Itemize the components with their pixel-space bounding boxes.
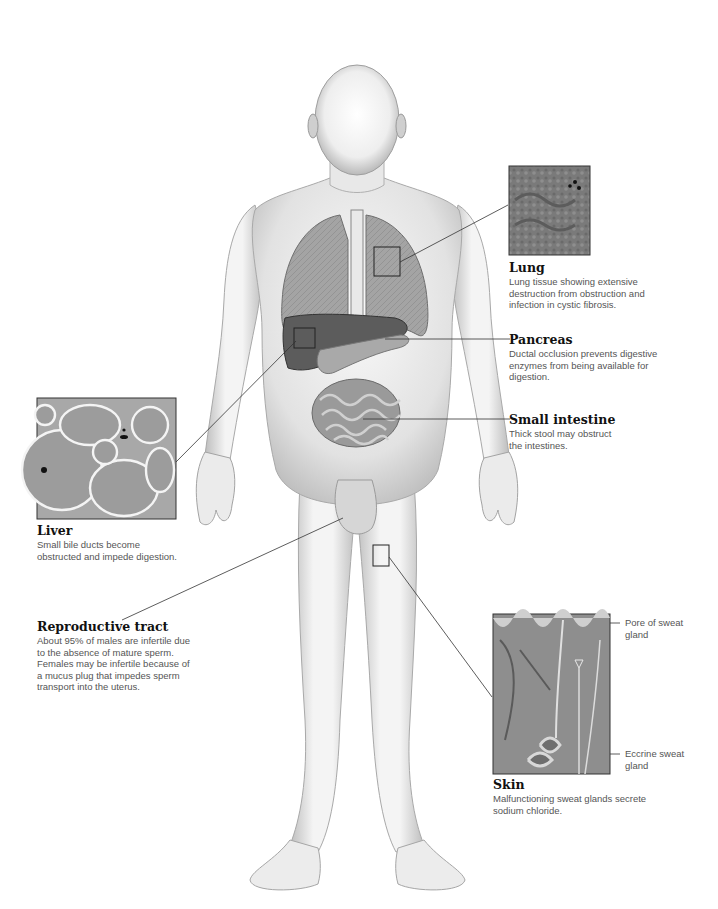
lung-desc-line: infection in cystic fibrosis. [509,299,645,311]
lung-desc-line: destruction from obstruction and [509,288,645,300]
liver-description: Small bile ducts become obstructed and i… [37,539,177,562]
left-foot [250,840,320,890]
skin-desc-line: Malfunctioning sweat glands secrete [493,793,646,805]
right-foot [396,840,465,890]
reproductive-tract-callout: Reproductive tract About 95% of males ar… [37,620,190,693]
skin-description: Malfunctioning sweat glands secrete sodi… [493,793,646,816]
skin-title: Skin [493,778,646,792]
reproductive-desc-line: transport into the uterus. [37,681,190,693]
small-intestine-callout: Small intestine Thick stool may obstruct… [509,413,615,451]
pancreas-description: Ductal occlusion prevents digestive enzy… [509,348,657,383]
anatomy-diagram: Lung Lung tissue showing extensive destr… [0,0,718,909]
pancreas-desc-line: digestion. [509,371,657,383]
liver-title: Liver [37,524,177,538]
lung-desc-line: Lung tissue showing extensive [509,276,645,288]
small-intestine-desc-line: the intestines. [509,440,615,452]
lung-description: Lung tissue showing extensive destructio… [509,276,645,311]
reproductive-tract-description: About 95% of males are infertile due to … [37,635,190,693]
left-ear [308,114,318,138]
skin-inset-image [493,609,610,774]
body-illustration [0,0,718,909]
pancreas-title: Pancreas [509,333,657,347]
pancreas-desc-line: Ductal occlusion prevents digestive [509,348,657,360]
reproductive-desc-line: a mucus plug that impedes sperm [37,670,190,682]
liver-desc-line: Small bile ducts become [37,539,177,551]
reproductive-desc-line: Females may be infertile because of [37,658,190,670]
liver-inset-image [22,398,176,519]
eccrine-label-line: Eccrine sweat [625,748,684,760]
right-leg [356,480,424,852]
eccrine-label-line: gland [625,760,684,772]
reproductive-tract-title: Reproductive tract [37,620,190,634]
lung-title: Lung [509,261,645,275]
small-intestine-desc-line: Thick stool may obstruct [509,428,615,440]
skin-desc-line: sodium chloride. [493,805,646,817]
small-intestine-description: Thick stool may obstruct the intestines. [509,428,615,451]
liver-desc-line: obstructed and impede digestion. [37,551,177,563]
right-ear [396,114,406,138]
pore-label-line: gland [625,629,683,641]
left-leg [290,480,356,852]
small-intestine-title: Small intestine [509,413,615,427]
pancreas-callout: Pancreas Ductal occlusion prevents diges… [509,333,657,383]
reproductive-desc-line: to the absence of mature sperm. [37,647,190,659]
pore-label-line: Pore of sweat [625,617,683,629]
skin-callout: Skin Malfunctioning sweat glands secrete… [493,778,646,816]
eccrine-sweat-gland-label: Eccrine sweat gland [625,748,684,771]
right-hand [479,452,518,525]
lung-callout: Lung Lung tissue showing extensive destr… [509,261,645,311]
liver-callout: Liver Small bile ducts become obstructed… [37,524,177,562]
lung-inset-image [509,166,590,255]
body-silhouette [196,65,517,890]
left-hand [196,452,235,525]
pancreas-desc-line: enzymes from being available for [509,360,657,372]
pore-of-sweat-gland-label: Pore of sweat gland [625,617,683,640]
trachea [351,210,363,320]
head [315,65,399,175]
small-intestine [312,379,400,447]
reproductive-desc-line: About 95% of males are infertile due [37,635,190,647]
